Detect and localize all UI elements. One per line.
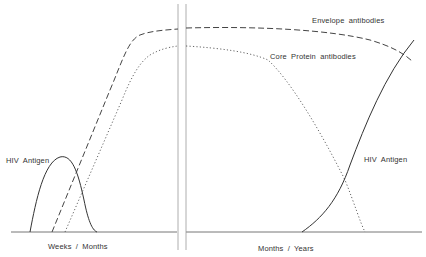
label-core-protein-antibodies: Core Protein antibodies <box>270 52 356 61</box>
x-label-months-years: Months / Years <box>258 244 314 253</box>
label-hiv-antigen-left: HIV Antigen <box>6 156 49 165</box>
hiv-antigen-late-curve <box>302 40 414 232</box>
hiv-serology-chart: Envelope antibodies Core Protein antibod… <box>0 0 426 257</box>
label-envelope-antibodies: Envelope antibodies <box>312 16 385 25</box>
hiv-antigen-early-curve <box>30 157 97 232</box>
label-hiv-antigen-right: HIV Antigen <box>364 155 407 164</box>
core-antibodies-curve-left <box>65 46 178 232</box>
x-label-weeks-months: Weeks / Months <box>48 242 108 251</box>
core-antibodies-curve-right <box>186 46 365 232</box>
envelope-antibodies-curve-left <box>52 29 178 232</box>
